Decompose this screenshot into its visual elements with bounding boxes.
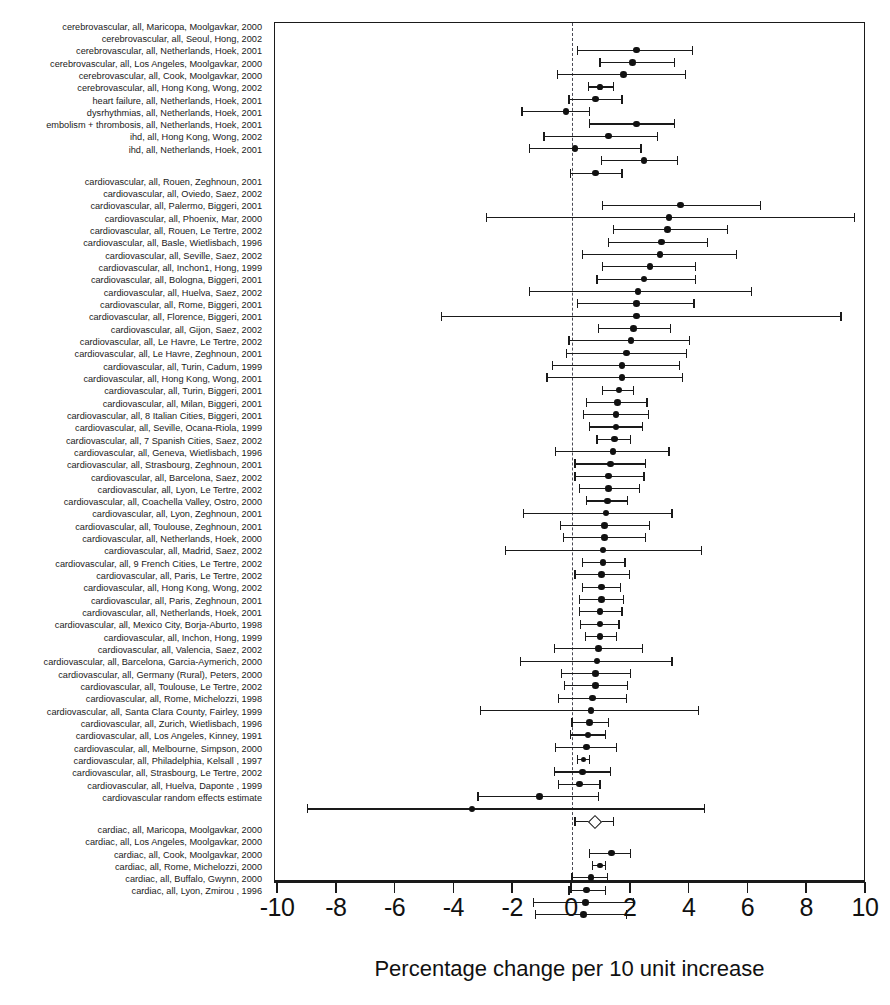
ci-lower-cap [555, 447, 556, 456]
ci-upper-cap [627, 496, 628, 505]
ci-lower-cap [570, 730, 571, 739]
ci-lower-cap [602, 386, 603, 395]
study-estimate-row [275, 619, 866, 630]
ci-lower-cap [589, 422, 590, 431]
study-estimate-row [275, 131, 866, 142]
study-estimate-row [275, 372, 866, 383]
study-estimate-row [275, 298, 866, 309]
ci-lower-cap [441, 312, 442, 321]
study-estimate-row [275, 693, 866, 704]
study-label: cardiovascular, all, Toulouse, Le Tertre… [81, 683, 262, 692]
point-estimate-marker [605, 133, 612, 140]
study-label: cardiovascular, all, Germany (Rural), Pe… [58, 671, 262, 680]
ci-lower-cap [577, 46, 578, 55]
study-label: cardiovascular, all, Le Havre, Le Tertre… [80, 338, 262, 347]
study-estimate-row [275, 385, 866, 396]
ci-upper-cap [751, 287, 752, 296]
study-estimate-row [275, 680, 866, 691]
ci-upper-cap [679, 361, 680, 370]
ci-lower-cap [579, 484, 580, 493]
ci-lower-cap [533, 898, 534, 907]
point-estimate-marker [601, 534, 608, 541]
point-estimate-marker [592, 682, 599, 689]
study-label: heart failure, all, Netherlands, Hoek, 2… [92, 97, 262, 106]
study-estimate-row [275, 81, 866, 92]
ci-upper-cap [645, 459, 646, 468]
ci-lower-cap [529, 287, 530, 296]
x-axis-title: Percentage change per 10 unit increase [274, 956, 865, 982]
ci-lower-cap [577, 755, 578, 764]
ci-lower-cap [558, 694, 559, 703]
study-estimate-row [275, 118, 866, 129]
study-label: cerebrovascular, all, Seoul, Hong, 2002 [102, 35, 262, 44]
point-estimate-marker [605, 485, 612, 492]
study-estimate-row [275, 643, 866, 654]
ci-lower-cap [579, 595, 580, 604]
ci-lower-cap [589, 849, 590, 858]
ci-upper-cap [695, 262, 696, 271]
study-label: cardiovascular, all, Rome, Michelozzi, 1… [86, 695, 262, 704]
ci-upper-cap [727, 225, 728, 234]
x-axis-tick-label: 0 [564, 895, 577, 920]
study-label: cerebrovascular, all, Hong Kong, Wong, 2… [77, 84, 262, 93]
point-estimate-marker [608, 850, 615, 857]
summary-diamond-marker [588, 815, 602, 829]
x-axis-tick [335, 882, 337, 893]
ci-upper-cap [671, 657, 672, 666]
point-estimate-marker [583, 744, 590, 751]
study-label: cardiovascular, all, Los Angeles, Kinney… [76, 732, 262, 741]
study-estimate-row [275, 434, 866, 445]
ci-lower-cap [555, 743, 556, 752]
confidence-interval-line [601, 160, 677, 161]
ci-upper-cap [645, 533, 646, 542]
study-label: cardiovascular, all, Palermo, Biggeri, 2… [90, 202, 262, 211]
study-label: cardiovascular, all, Milan, Biggeri, 200… [103, 400, 262, 409]
ci-upper-cap [589, 755, 590, 764]
point-estimate-marker [647, 263, 654, 270]
study-estimate-row [275, 286, 866, 297]
study-estimate-row [275, 69, 866, 80]
confidence-interval-line [553, 365, 679, 366]
study-estimate-row [275, 705, 866, 716]
point-estimate-marker [588, 707, 595, 714]
x-axis-tick-label: 10 [852, 895, 879, 920]
study-label: cardiovascular, all, Turin, Biggeri, 200… [104, 387, 262, 396]
x-axis-tick-label: 2 [623, 895, 636, 920]
point-estimate-marker [586, 719, 593, 726]
point-estimate-marker [601, 522, 608, 529]
summary-estimate-row [275, 816, 866, 827]
study-estimate-row [275, 729, 866, 740]
study-estimate-row [275, 520, 866, 531]
confidence-interval-line [523, 513, 671, 514]
ci-upper-cap [642, 422, 643, 431]
ci-lower-cap [582, 250, 583, 259]
ci-upper-cap [618, 620, 619, 629]
x-axis-tick-label: -4 [443, 895, 464, 920]
study-label: cardiovascular, all, Hong Kong, Wong, 20… [83, 375, 262, 384]
point-estimate-marker [585, 732, 592, 739]
ci-upper-cap [621, 607, 622, 616]
ci-lower-cap [582, 583, 583, 592]
ci-lower-cap [486, 213, 487, 222]
x-axis-tick [864, 882, 866, 893]
ci-upper-cap [760, 201, 761, 210]
study-label: cardiovascular, all, Paris, Le Tertre, 2… [96, 572, 262, 581]
ci-upper-cap [633, 386, 634, 395]
study-label: cardiovascular, all, Phoenix, Mar, 2000 [105, 215, 262, 224]
study-estimate-row [275, 471, 866, 482]
study-label: cardiovascular, all, Turin, Cadum, 1999 [103, 363, 262, 372]
ci-lower-cap [554, 644, 555, 653]
point-estimate-marker [641, 276, 648, 283]
ci-upper-cap [613, 82, 614, 91]
study-label: cardiovascular, all, Gijon, Saez, 2002 [111, 326, 262, 335]
ci-lower-cap [596, 435, 597, 444]
study-label: cerebrovascular, all, Netherlands, Hoek,… [76, 47, 262, 56]
study-label: cardiovascular, all, Rome, Biggeri, 2001 [100, 301, 262, 310]
study-estimate-row [275, 545, 866, 556]
ci-lower-cap [529, 144, 530, 153]
ci-lower-cap [582, 558, 583, 567]
ci-upper-cap [657, 132, 658, 141]
ci-lower-cap [558, 780, 559, 789]
study-label: cardiovascular, all, Seville, Saez, 2002 [105, 252, 262, 261]
point-estimate-marker [633, 300, 640, 307]
